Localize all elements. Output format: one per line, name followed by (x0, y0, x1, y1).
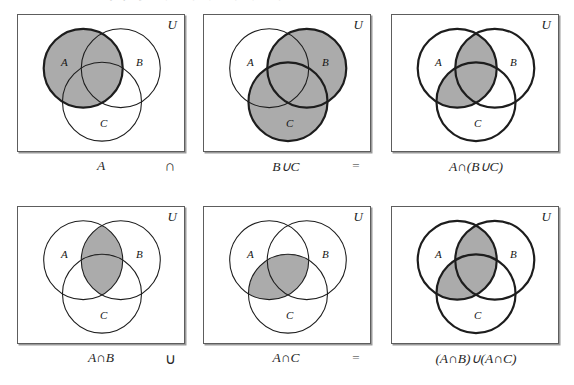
set-label-b: B (510, 56, 517, 68)
set-label-c: C (474, 309, 481, 321)
row-1: U A B C U A B C (0, 0, 574, 192)
operator-union: ∪ (140, 350, 200, 368)
universe-label: U (354, 209, 363, 225)
set-label-a: A (61, 248, 68, 260)
equals-sign: = (330, 350, 382, 366)
set-label-b: B (322, 248, 329, 260)
venn-panel-union-result: U A B C (391, 206, 559, 344)
set-label-c: C (474, 117, 481, 129)
set-label-b: B (136, 56, 143, 68)
venn-panel-a-cap-c: U A B C (203, 206, 371, 344)
caption-a-cap-b-union-c: A∩(B∪C) (390, 158, 562, 175)
set-label-a: A (435, 56, 442, 68)
universe-label: U (542, 209, 551, 225)
set-label-c: C (100, 117, 107, 129)
set-label-a: A (435, 248, 442, 260)
equals-sign: = (330, 158, 382, 174)
venn-panel-b-union-c: U A B C (203, 14, 371, 152)
row-1-captions: A ∩ B∪C = A∩(B∪C) (0, 158, 574, 188)
row-2: U A B C U A B C (0, 192, 574, 384)
universe-label: U (354, 17, 363, 33)
universe-label: U (168, 17, 177, 33)
set-label-b: B (136, 248, 143, 260)
set-label-c: C (286, 117, 293, 129)
set-label-a: A (247, 56, 254, 68)
operator-intersection: ∩ (140, 158, 200, 175)
universe-label: U (542, 17, 551, 33)
set-label-c: C (100, 309, 107, 321)
universe-label: U (168, 209, 177, 225)
venn-panel-a-cap-b: U A B C (17, 206, 185, 344)
set-label-a: A (61, 56, 68, 68)
set-label-c: C (286, 309, 293, 321)
venn-panel-a-cap-b-union-c: U A B C (391, 14, 559, 152)
set-label-b: B (322, 56, 329, 68)
set-label-a: A (247, 248, 254, 260)
venn-diagram-figure: distributive property A ∩ (B ∪ C) = (A ∩… (0, 0, 574, 385)
row-2-captions: A∩B ∪ A∩C = (A∩B)∪(A∩C) (0, 350, 574, 380)
caption-union-result: (A∩B)∪(A∩C) (390, 350, 562, 367)
venn-panel-a: U A B C (17, 14, 185, 152)
set-label-b: B (510, 248, 517, 260)
